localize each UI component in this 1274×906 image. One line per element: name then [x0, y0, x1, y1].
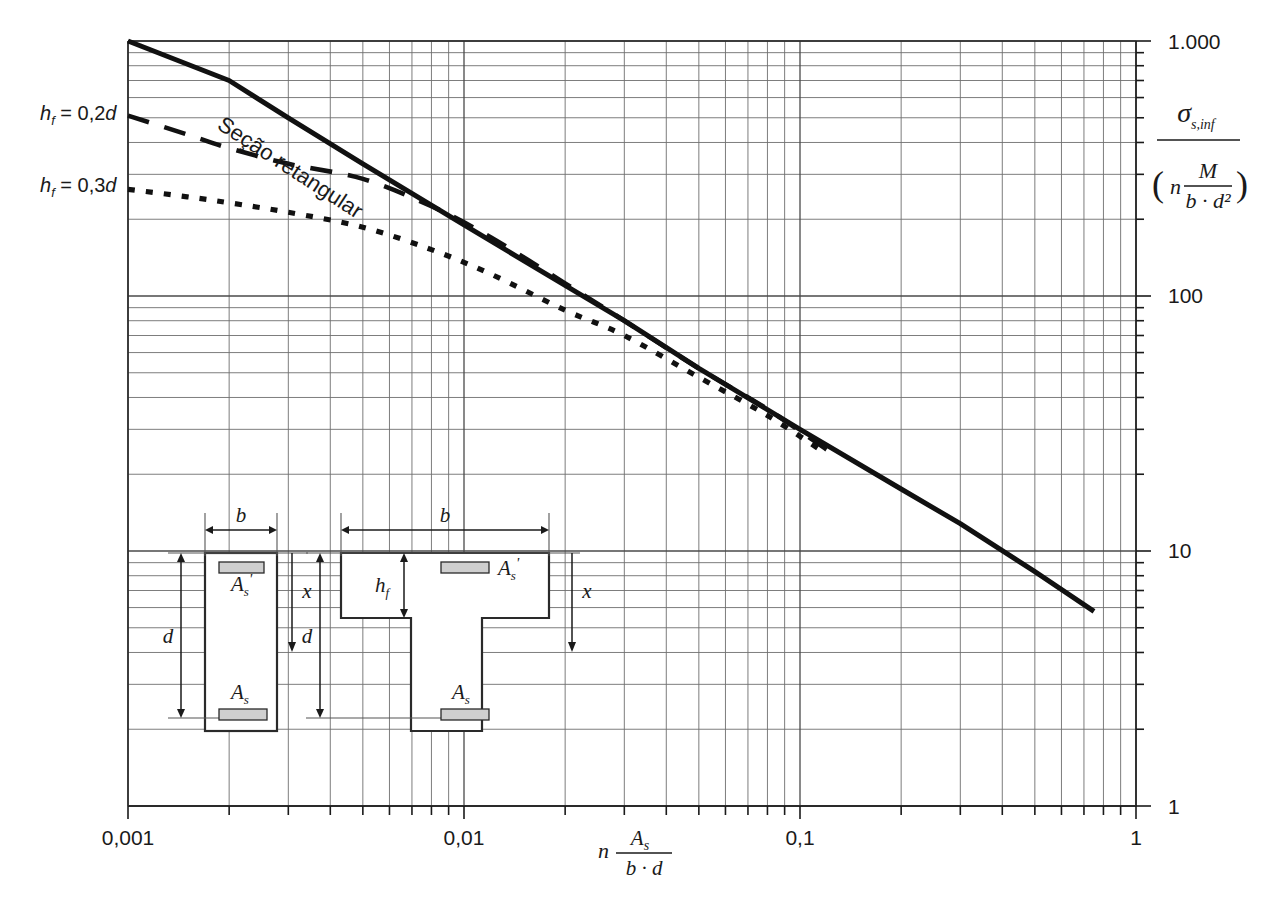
rect-bottom-rebar — [219, 709, 267, 720]
log-log-chart: 0,001 0,01 0,1 1 1.000 100 10 1 n As b ·… — [0, 0, 1274, 906]
rect-x-label: x — [301, 579, 312, 603]
hf-03d-sym: h — [40, 174, 51, 196]
y-tick-label-0: 1.000 — [1168, 30, 1221, 53]
x-tick-label-3: 1 — [1130, 826, 1142, 849]
y-title-open-paren: ( — [1152, 164, 1164, 204]
rect-d-label: d — [163, 624, 174, 648]
canvas-background — [0, 0, 1274, 906]
x-title-lead: n — [598, 838, 609, 863]
hf-02d-sym: h — [40, 102, 51, 124]
x-tick-label-0: 0,001 — [102, 826, 155, 849]
tee-x-label: x — [581, 579, 592, 603]
y-tick-label-1: 100 — [1168, 284, 1203, 307]
hf-03d-unit: d — [105, 174, 117, 196]
y-title-M: M — [1198, 158, 1219, 183]
x-tick-label-1: 0,01 — [444, 826, 485, 849]
chart-svg: 0,001 0,01 0,1 1 1.000 100 10 1 n As b ·… — [0, 0, 1274, 906]
tee-bottom-rebar — [441, 709, 489, 720]
y-title-n: n — [1170, 174, 1181, 199]
y-title-bd2: b · d² — [1185, 188, 1231, 213]
hf-03d-eq: = 0,3 — [55, 174, 106, 196]
x-tick-label-2: 0,1 — [785, 826, 814, 849]
y-title-close-paren: ) — [1236, 164, 1248, 204]
tee-b-label: b — [440, 503, 451, 527]
rect-b-label: b — [236, 503, 247, 527]
hf-02d-unit: d — [105, 102, 117, 124]
x-title-denominator: b · d — [626, 856, 663, 880]
tee-top-rebar — [441, 562, 489, 573]
y-tick-label-3: 1 — [1168, 795, 1180, 818]
tee-d-label: d — [302, 624, 313, 648]
hf-02d-eq: = 0,2 — [55, 102, 106, 124]
y-tick-label-2: 10 — [1168, 539, 1191, 562]
